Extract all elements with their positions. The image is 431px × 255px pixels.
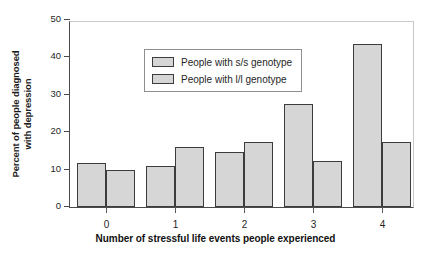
y-axis-tick: 30 bbox=[64, 94, 70, 95]
x-axis-tick: 2 bbox=[244, 207, 245, 213]
x-axis-tick: 0 bbox=[106, 207, 107, 213]
x-axis-tick-label: 0 bbox=[104, 219, 110, 230]
y-axis-tick-label: 10 bbox=[50, 163, 61, 174]
bar bbox=[106, 170, 135, 207]
x-axis-title: Number of stressful life events people e… bbox=[0, 233, 431, 244]
legend-label-ss: People with s/s genotype bbox=[181, 57, 292, 68]
bar bbox=[77, 163, 106, 207]
x-axis-tick-label: 1 bbox=[173, 219, 179, 230]
plot-area: 01020304050 01234 People with s/s genoty… bbox=[69, 21, 414, 208]
x-axis-tick: 1 bbox=[175, 207, 176, 213]
x-axis-tick-label: 2 bbox=[242, 219, 248, 230]
legend: People with s/s genotype People with l/l… bbox=[144, 49, 302, 92]
bar bbox=[175, 147, 204, 207]
y-axis-tick-label: 30 bbox=[50, 88, 61, 99]
y-axis-tick: 0 bbox=[64, 206, 70, 207]
x-axis-tick: 3 bbox=[313, 207, 314, 213]
y-axis-tick-label: 40 bbox=[50, 50, 61, 61]
bar-chart-figure: Percent of people diagnosed with depress… bbox=[0, 0, 431, 255]
y-axis-title-line1: Percent of people diagnosed bbox=[10, 50, 21, 177]
x-axis-tick-label: 4 bbox=[380, 219, 386, 230]
legend-label-ll: People with l/l genotype bbox=[181, 74, 287, 85]
bar bbox=[353, 44, 382, 207]
y-axis-tick-label: 20 bbox=[50, 125, 61, 136]
x-axis-tick: 4 bbox=[382, 207, 383, 213]
bar bbox=[146, 166, 175, 207]
bar bbox=[244, 142, 273, 207]
x-axis-tick-label: 3 bbox=[311, 219, 317, 230]
y-axis-tick: 10 bbox=[64, 169, 70, 170]
legend-swatch-icon-ss bbox=[152, 57, 174, 67]
y-axis-tick: 50 bbox=[64, 19, 70, 20]
legend-item-ll: People with l/l genotype bbox=[152, 72, 292, 86]
bar bbox=[284, 104, 313, 207]
y-axis-title: Percent of people diagnosed with depress… bbox=[6, 18, 36, 210]
legend-item-ss: People with s/s genotype bbox=[152, 55, 292, 69]
bar bbox=[382, 142, 411, 207]
y-axis-tick: 40 bbox=[64, 56, 70, 57]
bar bbox=[215, 152, 244, 207]
y-axis-tick-label: 50 bbox=[50, 13, 61, 24]
y-axis-title-line2: with depression bbox=[21, 50, 33, 177]
y-axis-tick: 20 bbox=[64, 131, 70, 132]
bar bbox=[313, 161, 342, 207]
y-axis-tick-label: 0 bbox=[56, 200, 61, 211]
legend-swatch-icon-ll bbox=[152, 74, 174, 84]
